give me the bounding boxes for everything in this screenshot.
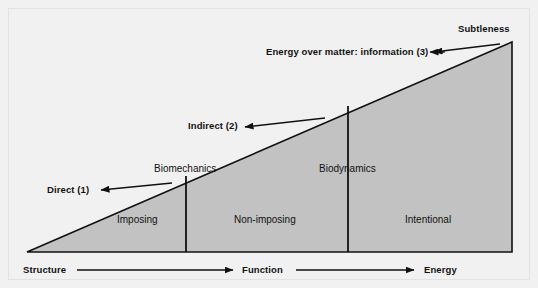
annotation-label-information: Energy over matter: information (3) (266, 47, 428, 57)
annotation-label-indirect: Indirect (2) (188, 121, 238, 131)
zone-label-imposing: Imposing (117, 215, 158, 225)
diagram-canvas (0, 0, 538, 288)
apex-label-subtleness: Subtleness (458, 24, 510, 34)
axis-label-structure: Structure (23, 265, 66, 275)
annotation-label-direct: Direct (1) (47, 185, 89, 195)
diagram-figure: Subtleness Energy over matter: informati… (0, 0, 538, 288)
divider-label-biodynamics: Biodynamics (319, 164, 376, 174)
zone-label-intentional: Intentional (405, 215, 451, 225)
leader-line-indirect (245, 118, 325, 127)
axis-label-energy: Energy (424, 265, 457, 275)
axis-label-function: Function (242, 265, 283, 275)
divider-label-biomechanics: Biomechanics (154, 164, 216, 174)
leader-line-direct (101, 183, 172, 190)
zone-label-non-imposing: Non-imposing (234, 215, 296, 225)
